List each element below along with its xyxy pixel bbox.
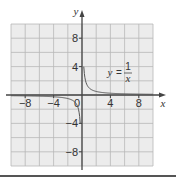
- x-tick-label: −8: [19, 97, 32, 109]
- x-tick-label: 4: [107, 97, 113, 109]
- equation-denominator: x: [125, 72, 131, 84]
- x-tick-label: 8: [136, 97, 142, 109]
- x-tick-label: −4: [47, 97, 60, 109]
- x-tick-label: 0: [74, 97, 80, 109]
- chart: xy−8−404884−4−8y=1x: [0, 0, 176, 182]
- y-tick-label: 8: [72, 32, 78, 44]
- equation-lhs: y: [107, 66, 113, 78]
- y-tick-label: −8: [65, 146, 78, 158]
- equation-numerator: 1: [125, 61, 131, 72]
- bottom-divider: [0, 175, 176, 177]
- y-tick-label: 4: [72, 61, 78, 73]
- equation-equals: =: [116, 67, 122, 78]
- y-axis-arrow-icon: [80, 10, 85, 17]
- plot-area: xy−8−404884−4−8y=1x: [6, 5, 166, 170]
- y-axis-label: y: [73, 5, 79, 17]
- x-axis-label: x: [160, 97, 166, 109]
- y-tick-label: −4: [65, 117, 78, 129]
